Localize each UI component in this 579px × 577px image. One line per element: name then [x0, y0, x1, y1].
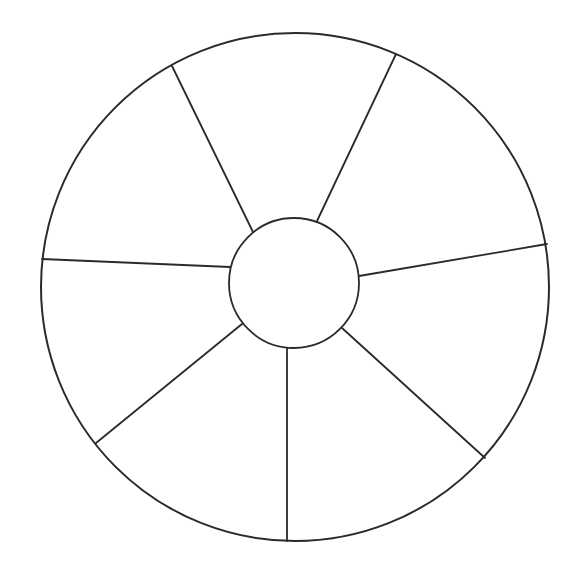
spoke-line-7 — [42, 259, 230, 267]
spoke-line-6 — [96, 324, 242, 443]
spoke-line-1 — [172, 66, 253, 232]
wheel-diagram — [0, 0, 579, 577]
wheel-diagram-canvas — [0, 0, 579, 577]
hub-circle — [229, 218, 359, 348]
spoke-line-3 — [359, 244, 547, 276]
spoke-line-2 — [317, 54, 396, 221]
spoke-line-4 — [342, 328, 485, 458]
